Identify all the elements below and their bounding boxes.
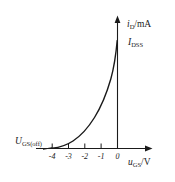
y-axis-unit: /mA	[134, 19, 151, 29]
x-tick-label--4: -4	[45, 153, 59, 161]
x-tick-label--3: -3	[62, 153, 76, 161]
y-axis-arrowhead	[115, 16, 121, 24]
x-tick-label--2: -2	[78, 153, 92, 161]
transfer-characteristic-curve	[52, 41, 117, 149]
idss-subscript: DSS	[131, 41, 143, 48]
y-axis-title: iD/mA	[127, 20, 151, 30]
x-axis-title: uGS/V	[128, 158, 151, 168]
jfet-transfer-characteristic-figure: iD/mA IDSS uGS/V UGS(off) -4-3-2-10	[0, 0, 175, 182]
pinchoff-voltage-label: UGS(off)	[15, 137, 42, 147]
pinchoff-subscript: GS(off)	[22, 140, 42, 147]
x-axis-arrowhead	[145, 146, 153, 152]
x-axis-ticks	[52, 144, 101, 149]
x-tick-label-0: 0	[111, 153, 125, 161]
x-axis-subscript: GS	[133, 161, 141, 168]
idss-label: IDSS	[128, 38, 143, 48]
x-tick-label--1: -1	[94, 153, 108, 161]
x-axis-unit: /V	[141, 157, 151, 167]
pinchoff-symbol: U	[15, 136, 22, 146]
